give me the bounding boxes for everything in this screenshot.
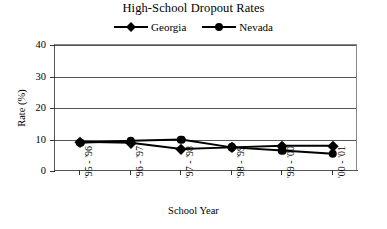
legend-label-georgia: Georgia: [151, 21, 186, 33]
x-tick-mark: [281, 170, 282, 175]
legend-line-nevada: [202, 26, 236, 28]
series-lines: [55, 45, 358, 171]
legend-line-georgia: [114, 26, 148, 28]
x-tick-label: '97 - '98: [184, 146, 195, 178]
circle-marker-icon: [215, 23, 223, 31]
x-tick-mark: [79, 170, 80, 175]
x-axis-line: [54, 170, 358, 171]
chart-legend: Georgia Nevada: [0, 21, 387, 33]
x-tick-mark: [180, 170, 181, 175]
x-tick-label: '99 - '00: [285, 146, 296, 178]
chart-container: High-School Dropout Rates Georgia Nevada…: [0, 0, 387, 229]
y-tick-label: 0: [0, 165, 46, 176]
legend-item-nevada[interactable]: Nevada: [202, 21, 273, 33]
data-point-nevada: [177, 135, 186, 144]
y-tick-label: 40: [0, 39, 46, 50]
plot-area: Rate (%): [54, 44, 357, 170]
legend-label-nevada: Nevada: [239, 21, 273, 33]
y-tick-mark: [50, 171, 55, 172]
x-tick-mark: [231, 170, 232, 175]
y-tick-label: 30: [0, 70, 46, 81]
legend-item-georgia[interactable]: Georgia: [114, 21, 186, 33]
x-tick-mark: [332, 170, 333, 175]
y-tick-label: 10: [0, 133, 46, 144]
x-tick-mark: [130, 170, 131, 175]
diamond-marker-icon: [126, 22, 136, 32]
x-tick-label: '96 - '97: [134, 146, 145, 178]
x-tick-label: '98 - '99: [235, 146, 246, 178]
x-tick-label: '00 - '01: [336, 146, 347, 178]
x-tick-label: '95 - '96: [83, 146, 94, 178]
chart-title: High-School Dropout Rates: [0, 1, 387, 16]
x-axis-label: School Year: [0, 205, 387, 216]
y-tick-label: 20: [0, 102, 46, 113]
data-point-nevada: [127, 137, 136, 146]
